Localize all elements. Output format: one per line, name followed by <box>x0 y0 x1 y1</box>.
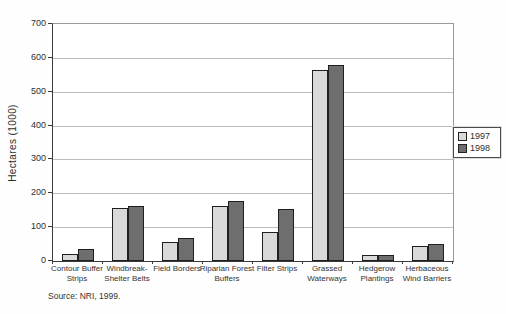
bar-1998 <box>228 201 244 261</box>
plot-area <box>52 23 454 262</box>
bar-1998 <box>278 209 294 261</box>
legend-label: 1998 <box>470 143 490 153</box>
legend-swatch-icon <box>458 144 467 153</box>
y-tick-label-300: 300 <box>0 153 46 163</box>
y-tick-mark <box>48 158 52 159</box>
y-tick-mark <box>48 23 52 24</box>
bar-group <box>153 24 203 261</box>
x-category-label: Herbaceous Wind Barriers <box>395 264 459 284</box>
y-tick-mark <box>48 125 52 126</box>
y-tick-mark <box>48 192 52 193</box>
bar-1997 <box>362 255 378 261</box>
y-tick-label-600: 600 <box>0 52 46 62</box>
bar-1998 <box>78 249 94 261</box>
bar-1997 <box>162 242 178 261</box>
bar-group <box>53 24 103 261</box>
bar-group <box>353 24 403 261</box>
bar-1997 <box>62 254 78 261</box>
bar-group <box>403 24 453 261</box>
bar-1997 <box>312 70 328 261</box>
y-tick-label-200: 200 <box>0 187 46 197</box>
legend-label: 1997 <box>470 131 490 141</box>
bar-1997 <box>212 206 228 261</box>
y-tick-mark <box>48 57 52 58</box>
legend: 19971998 <box>453 127 501 158</box>
y-tick-label-500: 500 <box>0 86 46 96</box>
bar-group <box>253 24 303 261</box>
bar-1998 <box>328 65 344 261</box>
bar-group <box>203 24 253 261</box>
y-tick-label-0: 0 <box>0 255 46 265</box>
bar-group <box>103 24 153 261</box>
y-tick-label-100: 100 <box>0 221 46 231</box>
bar-1998 <box>378 255 394 261</box>
bar-1997 <box>262 232 278 261</box>
bar-chart: Hectares (1000) 0100200300400500600700Co… <box>0 0 506 314</box>
legend-swatch-icon <box>458 132 467 141</box>
y-axis-title: Hectares (1000) <box>7 58 21 228</box>
bar-1998 <box>128 206 144 261</box>
source-note: Source: NRI, 1999. <box>48 291 120 301</box>
y-tick-mark <box>48 91 52 92</box>
bar-1998 <box>428 244 444 261</box>
bar-1997 <box>412 246 428 261</box>
legend-item-1998: 1998 <box>458 143 496 153</box>
legend-item-1997: 1997 <box>458 131 496 141</box>
bar-group <box>303 24 353 261</box>
y-tick-label-700: 700 <box>0 18 46 28</box>
y-tick-label-400: 400 <box>0 120 46 130</box>
y-tick-mark <box>48 226 52 227</box>
bar-1997 <box>112 208 128 261</box>
bar-1998 <box>178 238 194 261</box>
